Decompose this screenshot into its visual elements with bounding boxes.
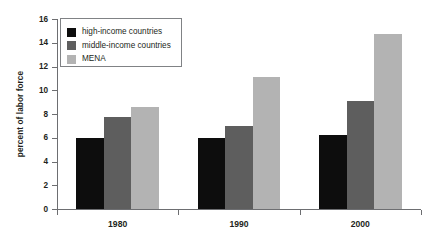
bar — [374, 34, 402, 209]
bar-chart: percent of labor force 0246810121416 198… — [0, 0, 439, 248]
legend-swatch-icon — [67, 28, 76, 37]
bar — [131, 107, 159, 209]
y-axis-line — [57, 19, 58, 210]
bar — [253, 77, 281, 209]
bar — [104, 117, 132, 209]
x-group-label: 1980 — [57, 219, 178, 230]
y-tick-label: 6 — [26, 133, 48, 142]
y-tick-mark — [52, 185, 57, 186]
y-tick-label: 0 — [26, 205, 48, 214]
legend-label: high-income countries — [82, 27, 162, 37]
x-tick-mark — [57, 210, 58, 215]
x-axis-line — [57, 209, 421, 210]
x-tick-mark — [421, 210, 422, 215]
y-tick-label: 8 — [26, 110, 48, 119]
y-tick-mark — [52, 162, 57, 163]
bar — [347, 101, 375, 209]
y-tick-label: 12 — [26, 62, 48, 71]
y-tick-mark — [52, 90, 57, 91]
x-group-label: 2000 — [300, 219, 421, 230]
y-tick-label: 4 — [26, 157, 48, 166]
y-tick-label: 16 — [26, 15, 48, 24]
y-tick-label: 14 — [26, 38, 48, 47]
x-tick-mark — [300, 210, 301, 215]
legend-item: high-income countries — [67, 25, 162, 39]
x-group-label: 1990 — [178, 219, 299, 230]
y-tick-mark — [52, 114, 57, 115]
y-tick-label: 2 — [26, 181, 48, 190]
y-tick-label: 10 — [26, 86, 48, 95]
x-tick-mark — [178, 210, 179, 215]
legend-swatch-icon — [67, 55, 76, 64]
legend-label: middle-income countries — [82, 41, 171, 51]
bar — [198, 138, 226, 209]
y-tick-mark — [52, 19, 57, 20]
y-tick-mark — [52, 138, 57, 139]
legend-item: middle-income countries — [67, 39, 171, 53]
bar — [319, 135, 347, 209]
legend-swatch-icon — [67, 41, 76, 50]
bar — [225, 126, 253, 209]
legend-label: MENA — [82, 54, 106, 64]
bar — [76, 138, 104, 209]
y-tick-mark — [52, 67, 57, 68]
y-tick-mark — [52, 43, 57, 44]
legend-item: MENA — [67, 52, 106, 66]
legend: high-income countriesmiddle-income count… — [60, 18, 182, 67]
